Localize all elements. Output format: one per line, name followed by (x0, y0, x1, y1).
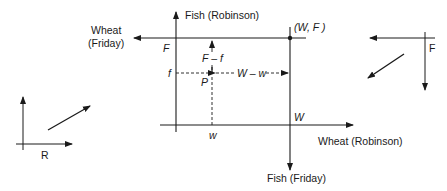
robinson-preference-arrow (48, 106, 90, 130)
friday-wheat-difference-label: W – w (237, 67, 268, 79)
robinson-fish-label: f (168, 67, 172, 79)
endowment-point-dot (288, 36, 292, 40)
friday-wheat-axis-label-line1: Wheat (91, 24, 121, 36)
friday-fish-axis-label: Fish (Friday) (267, 172, 326, 184)
robinson-inset (16, 97, 90, 150)
friday-preference-arrow (368, 54, 404, 78)
friday-fish-difference-label: F – f (202, 52, 224, 64)
total-fish-label: F (163, 42, 170, 54)
robinson-fish-axis-label: Fish (Robinson) (185, 9, 259, 21)
robinson-wheat-label: w (209, 129, 218, 141)
friday-inset (368, 32, 435, 90)
friday-inset-label: F (429, 42, 435, 54)
robinson-inset-label: R (41, 149, 49, 161)
robinson-wheat-axis-label: Wheat (Robinson) (318, 135, 403, 147)
endowment-point-label: (W, F ) (294, 21, 326, 33)
edgeworth-box-diagram: Fish (Robinson) Wheat (Robinson) Wheat (… (0, 0, 447, 191)
total-wheat-label: W (294, 111, 305, 123)
allocation-point-label: P (201, 76, 208, 88)
friday-wheat-axis-label-line2: (Friday) (88, 37, 124, 49)
